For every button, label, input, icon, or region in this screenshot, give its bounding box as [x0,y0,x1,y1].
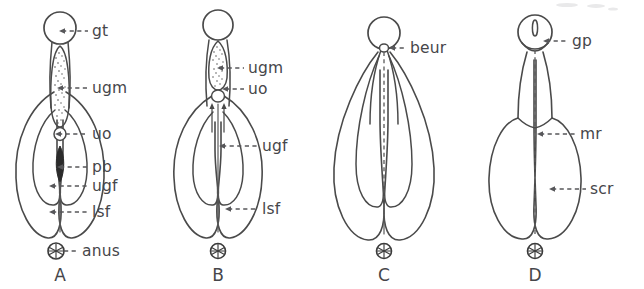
label-lsf: lsf [92,203,111,221]
panel-letter-a: A [54,265,66,285]
anus-a [48,243,64,259]
label-mr: mr [580,125,602,143]
genital-development-diagram: gt ugm uo pb ugf lsf anus A [0,0,644,289]
urogenital-membrane-outline-b [209,41,227,90]
anus-c [377,244,392,259]
panel-c: beur C [334,17,447,285]
genital-pore-d [532,20,537,36]
label-gt: gt [92,22,108,40]
label-ugm-b: ugm [248,59,283,77]
anus-d [528,244,543,259]
label-uo: uo [92,125,112,143]
genital-tubercle-a [44,12,76,44]
panel-a: gt ugm uo pb ugf lsf anus A [16,12,128,285]
anus-b [211,244,226,259]
label-scr: scr [590,180,614,198]
label-anus: anus [82,242,120,260]
base-of-urethra-c [380,44,389,52]
label-lsf-b: lsf [262,200,281,218]
label-beur: beur [410,39,447,57]
figure-container: gt ugm uo pb ugf lsf anus A [0,0,644,289]
label-pb: pb [92,158,112,176]
urogenital-orifice-b [212,90,225,102]
genital-tubercle-b [203,10,233,40]
panel-d: gp mr scr D [489,15,614,285]
label-ugf-b: ugf [262,137,288,155]
label-gp: gp [572,32,592,50]
scan-artifact [556,3,618,11]
panel-letter-b: B [212,265,224,285]
label-uo-b: uo [248,80,268,98]
label-ugm: ugm [92,79,127,97]
panel-letter-d: D [528,265,541,285]
panel-b: ugm uo ugf lsf B [174,10,288,285]
panel-letter-c: C [378,265,390,285]
label-ugf: ugf [92,177,118,195]
